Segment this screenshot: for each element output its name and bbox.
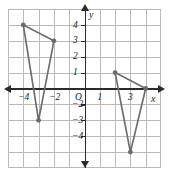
- y-axis-label: y: [89, 9, 93, 20]
- triangle-right: [115, 73, 146, 153]
- vertex-point: [128, 150, 133, 155]
- vertex-point: [143, 86, 148, 91]
- vertex-point: [113, 70, 118, 75]
- vertex-point: [36, 118, 41, 123]
- x-tick-label-neg2: −2: [49, 93, 60, 103]
- x-axis-label: x: [151, 93, 155, 104]
- x-tick-label-neg4: −4: [18, 93, 29, 103]
- x-tick-label-1: 1: [98, 93, 103, 103]
- vertex-point: [21, 23, 26, 28]
- y-tick-label-neg3: −3: [72, 116, 83, 126]
- y-tick-label-2: 2: [73, 52, 78, 62]
- y-tick-label-1: 1: [73, 68, 78, 78]
- y-tick-label-neg4: −4: [72, 132, 83, 142]
- x-tick-label-3: 3: [128, 93, 133, 103]
- y-tick-label-3: 3: [73, 36, 78, 46]
- shapes-layer: [8, 9, 161, 168]
- vertex-point: [52, 38, 57, 43]
- triangle-left: [23, 25, 54, 120]
- y-tick-label-4: 4: [73, 21, 78, 31]
- origin-label: O: [75, 93, 82, 103]
- plot-area: −4 −2 1 3 4 3 2 1 −2 −3 −4 O x y: [8, 9, 161, 168]
- coordinate-plane-figure: −4 −2 1 3 4 3 2 1 −2 −3 −4 O x y: [0, 0, 170, 177]
